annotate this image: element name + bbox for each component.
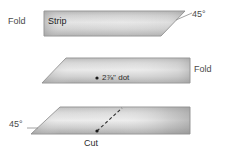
label-fold-left: Fold: [8, 17, 26, 26]
label-angle-top: 45°: [192, 10, 206, 19]
instruction-diagram: Fold Strip 45° 2⅞" dot Fold 45° Cut: [0, 0, 225, 153]
label-fold-right: Fold: [194, 65, 212, 74]
cut-origin-dot: [95, 129, 98, 132]
label-angle-bottom: 45°: [9, 120, 23, 129]
label-dot-measure: 2⅞" dot: [102, 74, 129, 82]
label-strip: Strip: [48, 17, 67, 26]
strip-shade-3: [31, 107, 190, 134]
step-3-cut-shape: [27, 107, 190, 134]
measure-dot: [95, 76, 98, 79]
label-cut: Cut: [84, 139, 98, 148]
